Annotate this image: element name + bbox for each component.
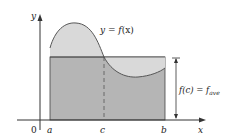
y-axis-arrow-icon (38, 14, 43, 21)
x-axis-label: x (198, 125, 203, 135)
a-label: a (47, 125, 52, 135)
c-label: c (100, 125, 105, 135)
b-label: b (161, 125, 167, 135)
average-value-diagram: y x 0 a c b y = f(x) f(c) = fave (0, 0, 225, 139)
bracket-up-arrow-icon (174, 58, 178, 63)
curve-label: y = f(x) (99, 25, 134, 35)
origin-label: 0 (31, 125, 37, 135)
bracket-down-arrow-icon (174, 114, 178, 119)
x-axis-arrow-icon (199, 118, 206, 123)
y-axis-label: y (30, 11, 37, 21)
bracket-label: f(c) = fave (178, 85, 220, 96)
